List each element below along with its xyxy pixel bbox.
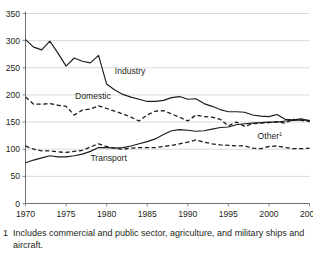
series-label-industry: Industry xyxy=(115,66,146,76)
svg-text:50: 50 xyxy=(10,171,20,181)
svg-text:200: 200 xyxy=(6,90,21,100)
chart-gridlines xyxy=(26,14,310,204)
footnote-text: Includes commercial and public sector, a… xyxy=(13,228,309,251)
chart-x-tick-labels: 19701975198019851990199520002005 xyxy=(16,209,313,219)
line-chart: 050100150200250300350 197019751980198519… xyxy=(0,0,313,225)
svg-text:2005: 2005 xyxy=(300,209,313,219)
figure-container: 050100150200250300350 197019751980198519… xyxy=(0,0,313,253)
series-label-other: Other1 xyxy=(258,131,283,141)
svg-text:1975: 1975 xyxy=(57,209,76,219)
series-label-domestic: Domestic xyxy=(75,91,112,101)
footnote-marker: 1 xyxy=(3,228,8,240)
svg-text:2000: 2000 xyxy=(259,209,278,219)
series-label-transport: Transport xyxy=(90,153,127,163)
series-line-other xyxy=(26,140,310,152)
chart-y-tick-labels: 050100150200250300350 xyxy=(6,9,21,209)
svg-text:300: 300 xyxy=(6,36,21,46)
chart-series-lines xyxy=(26,40,310,163)
series-line-industry xyxy=(26,40,310,121)
svg-text:1985: 1985 xyxy=(138,209,157,219)
svg-text:1970: 1970 xyxy=(16,209,35,219)
svg-text:0: 0 xyxy=(15,199,20,209)
svg-text:1995: 1995 xyxy=(219,209,238,219)
svg-text:100: 100 xyxy=(6,144,21,154)
svg-text:1980: 1980 xyxy=(97,209,116,219)
svg-text:250: 250 xyxy=(6,63,21,73)
svg-text:150: 150 xyxy=(6,117,21,127)
series-line-transport xyxy=(26,120,310,163)
svg-text:350: 350 xyxy=(6,9,21,19)
footnote: 1 Includes commercial and public sector,… xyxy=(3,228,309,251)
svg-text:1990: 1990 xyxy=(178,209,197,219)
